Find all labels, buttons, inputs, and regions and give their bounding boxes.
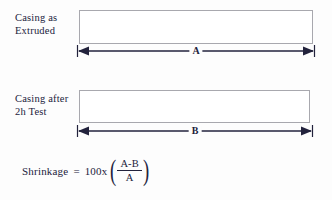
formula-fraction-bar bbox=[117, 170, 141, 171]
specimen-label-extruded: Casing as Extruded bbox=[15, 11, 57, 37]
formula-denominator: A bbox=[123, 172, 137, 183]
shrinkage-diagram: Casing as Extruded A Casing after 2h Tes… bbox=[0, 0, 332, 200]
dimension-label-b: B bbox=[189, 126, 202, 136]
formula-coefficient: 100x bbox=[85, 165, 108, 177]
dimension-line-b: B bbox=[75, 123, 315, 139]
dimension-line-a: A bbox=[75, 43, 317, 59]
specimen-label-after-test: Casing after 2h Test bbox=[15, 92, 68, 118]
formula-open-paren: ( bbox=[110, 158, 116, 183]
formula-numerator: A-B bbox=[117, 158, 141, 169]
shrinkage-formula: Shrinkage = 100x ( A-B A ) bbox=[22, 158, 151, 183]
formula-fraction: A-B A bbox=[117, 158, 141, 183]
formula-equals-sign: = bbox=[73, 165, 79, 177]
casing-rectangle-after-test bbox=[79, 90, 310, 123]
casing-rectangle-extruded bbox=[79, 10, 313, 44]
dimension-label-a: A bbox=[189, 46, 202, 56]
formula-term-shrinkage: Shrinkage bbox=[22, 165, 68, 177]
formula-close-paren: ) bbox=[143, 158, 149, 183]
